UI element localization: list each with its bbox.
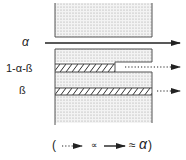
label-one-minus-alpha-beta: 1-α-ß [6, 62, 33, 74]
channel-diagram [0, 0, 186, 160]
legend-close-paren: ) [148, 138, 152, 152]
label-beta: ß [19, 84, 26, 96]
label-alpha: α [22, 35, 29, 49]
hatched-layer-1 [55, 64, 115, 72]
hatched-layer-2 [55, 88, 152, 95]
upper-region [55, 3, 152, 37]
legend-alpha: α [139, 136, 147, 152]
lower-region [55, 49, 152, 125]
legend-open-paren: ( [52, 138, 56, 152]
legend-approx: ≈ [129, 138, 136, 152]
legend-proportional: ∝ [91, 140, 97, 150]
